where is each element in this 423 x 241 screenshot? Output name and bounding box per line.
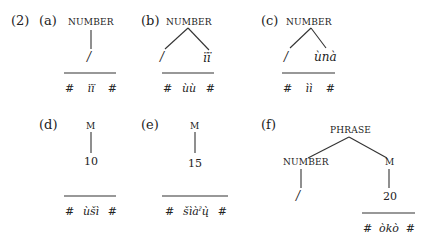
boundary-right: # — [108, 206, 117, 217]
panel-c-child-right: ùnà — [314, 51, 337, 63]
branch-b-left — [165, 28, 188, 49]
panel-c-label: (c) — [261, 14, 278, 27]
boundary-left: # — [65, 83, 74, 94]
branch-f-left — [308, 137, 349, 158]
panel-d-root: M — [86, 122, 95, 131]
panel-f-child-m: M — [385, 158, 394, 167]
form-text: ìì — [305, 83, 312, 94]
panel-d-child: 10 — [84, 156, 98, 167]
boundary-left: # — [163, 83, 172, 94]
panel-e-form: # šìàˀų̀ # — [165, 206, 227, 217]
boundary-right: # — [206, 83, 215, 94]
panel-d-label: (d) — [39, 118, 57, 131]
panel-b-label: (b) — [141, 14, 159, 27]
branch-c-left — [290, 28, 311, 48]
boundary-right: # — [326, 83, 335, 94]
branch-b-right — [188, 28, 209, 50]
panel-a-form: # ïï # — [65, 83, 117, 94]
panel-f-root: PHRASE — [330, 126, 371, 135]
form-text: ùù — [182, 83, 196, 94]
example-number: (2) — [11, 14, 29, 27]
boundary-left: # — [283, 83, 292, 94]
boundary-right: # — [218, 206, 227, 217]
tree-branches — [0, 0, 423, 241]
panel-b-root: NUMBER — [166, 18, 212, 27]
panel-e-child: 15 — [188, 158, 202, 169]
panel-a-root: NUMBER — [68, 18, 114, 27]
panel-c-form: # ìì # — [283, 83, 335, 94]
form-text: ùšì — [83, 206, 99, 217]
panel-f-child-number: NUMBER — [283, 158, 329, 167]
form-text: ïï — [87, 83, 94, 94]
form-text: òkò — [379, 223, 399, 234]
boundary-left: # — [363, 223, 372, 234]
panel-e-root: M — [190, 122, 199, 131]
panel-f-grandchild-right: 20 — [383, 191, 397, 202]
boundary-left: # — [65, 206, 74, 217]
panel-c-child-left: / — [284, 51, 288, 63]
boundary-right: # — [406, 223, 415, 234]
branch-c-right — [311, 28, 326, 48]
panel-b-child-left: / — [160, 51, 164, 63]
panel-f-label: (f) — [261, 118, 276, 131]
panel-b-form: # ùù # — [163, 83, 215, 94]
panel-d-form: # ùšì # — [65, 206, 117, 217]
branch-f-right — [349, 137, 387, 158]
form-text: šìàˀų̀ — [183, 206, 209, 217]
panel-f-form: # òkò # — [363, 223, 415, 234]
panel-f-grandchild-left: / — [296, 190, 300, 202]
panel-c-root: NUMBER — [286, 18, 332, 27]
boundary-left: # — [165, 206, 174, 217]
boundary-right: # — [108, 83, 117, 94]
panel-b-child-right: ïï — [203, 52, 211, 64]
panel-a-child: / — [87, 51, 91, 63]
panel-a-label: (a) — [39, 14, 57, 27]
panel-e-label: (e) — [141, 118, 159, 131]
